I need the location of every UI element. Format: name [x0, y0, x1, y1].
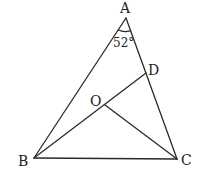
segment-bd	[34, 73, 146, 158]
angle-label-a: 52°	[113, 36, 134, 50]
triangle-diagram: A 52° D O B C	[0, 0, 217, 186]
segment-oc	[105, 105, 177, 159]
point-label-d: D	[148, 62, 159, 78]
point-label-a: A	[119, 0, 131, 16]
point-label-c: C	[181, 152, 192, 168]
angle-arc-a	[118, 30, 130, 32]
segment-bc	[34, 158, 177, 159]
point-label-b: B	[18, 153, 28, 169]
point-label-o: O	[90, 93, 101, 109]
